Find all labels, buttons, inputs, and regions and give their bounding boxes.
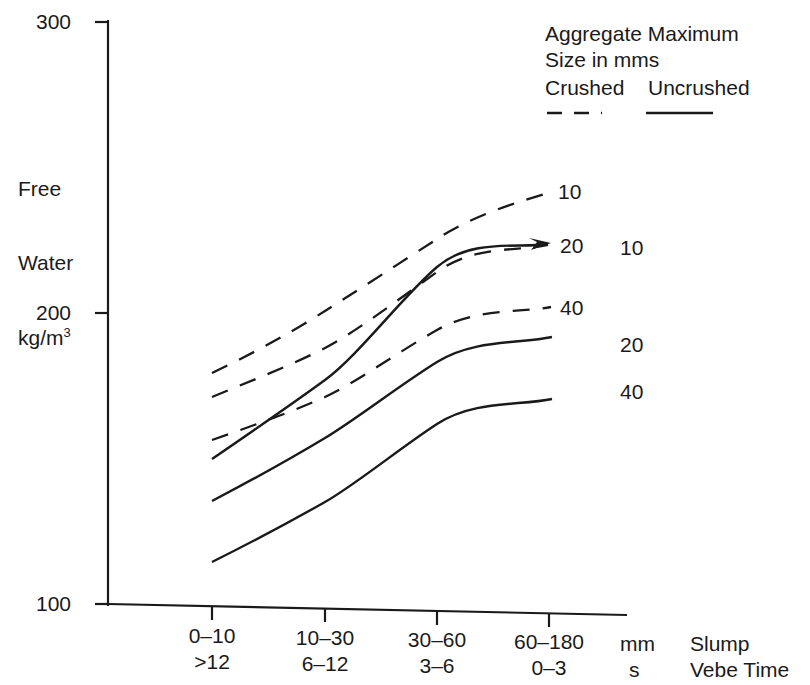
curve-uncrushed-20: [212, 337, 552, 501]
curve-end-label-uncrushed-20: 20: [620, 333, 643, 358]
free-water-content-chart: 300 200 100 Free Water kg/m3 Aggregate M…: [0, 0, 810, 685]
x-category-label-3-vebe: 0–3: [484, 656, 614, 681]
y-axis-unit-base: kg/m: [18, 326, 64, 349]
x-category-label-0-vebe: >12: [152, 650, 272, 675]
curve-end-label-crushed-40: 40: [560, 296, 583, 321]
x-category-label-2-slump: 30–60: [375, 628, 499, 653]
curve-crushed-40: [212, 307, 551, 440]
y-tick-label-100: 100: [36, 592, 71, 617]
x-axis-row-label-slump: Slump: [690, 632, 750, 657]
legend-title-line-2: Size in mms: [545, 48, 659, 73]
legend-crushed-label: Crushed: [545, 76, 624, 101]
x-category-label-0-slump: 0–10: [152, 624, 272, 649]
curve-end-label-crushed-20: 20: [560, 234, 583, 259]
y-axis-unit-exponent: 3: [64, 325, 71, 340]
curve-crushed-10: [212, 192, 551, 373]
y-axis-title-line-1: Free: [18, 177, 73, 202]
x-axis-unit-primary: mm: [620, 632, 655, 657]
x-axis-row-label-vebe-time: Vebe Time: [690, 658, 789, 683]
chart-plot-area: [0, 0, 810, 685]
y-axis-title-line-3: kg/m3: [18, 325, 73, 351]
arrowhead-icon: [529, 238, 551, 250]
y-axis-title-line-2: Water: [18, 251, 73, 276]
curve-end-label-crushed-10: 10: [558, 180, 581, 205]
curve-end-label-uncrushed-10: 10: [620, 236, 643, 261]
curve-crushed-20: [212, 245, 548, 397]
y-axis-title: Free Water kg/m3: [18, 127, 73, 400]
y-tick-label-300: 300: [36, 10, 71, 35]
curve-end-label-uncrushed-40: 40: [620, 380, 643, 405]
legend-title-line-1: Aggregate Maximum: [545, 22, 739, 47]
x-category-label-1-slump: 10–30: [263, 626, 387, 651]
x-axis-unit-secondary: s: [629, 658, 640, 683]
legend-uncrushed-label: Uncrushed: [648, 76, 750, 101]
x-category-label-3-slump: 60–180: [484, 630, 614, 655]
x-category-label-2-vebe: 3–6: [375, 654, 499, 679]
x-category-label-1-vebe: 6–12: [263, 652, 387, 677]
